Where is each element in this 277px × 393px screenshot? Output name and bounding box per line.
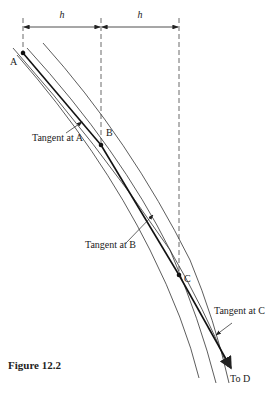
label-leaders [66, 122, 232, 335]
tangent-c-label: Tangent at C [214, 305, 265, 316]
dimension-label-h1: h [60, 9, 65, 20]
point-c-label: C [184, 273, 191, 284]
curve-lines [13, 43, 229, 383]
point-b-marker [99, 143, 104, 148]
figure-diagram: h h A B C Tangent at A Tangent at B Tang… [0, 0, 277, 393]
tangent-a-label: Tangent at A [32, 132, 84, 143]
figure-caption: Figure 12.2 [8, 359, 61, 371]
tangent-b-label: Tangent at B [85, 239, 136, 250]
point-b-label: B [106, 127, 113, 138]
point-c-marker [177, 273, 182, 278]
dimension-label-h2: h [138, 9, 143, 20]
point-a-marker [21, 51, 26, 56]
point-a-label: A [10, 56, 18, 67]
to-d-label: To D [230, 373, 250, 384]
